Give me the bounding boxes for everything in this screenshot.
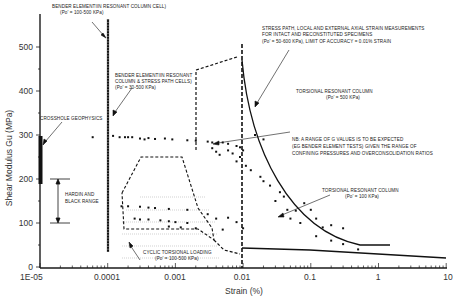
data-point [299,222,301,224]
data-point [174,221,176,223]
data-point [119,136,121,138]
data-point [279,191,281,193]
data-point [112,135,114,137]
data-point [180,226,182,228]
data-point [357,248,359,250]
label-trc-500: TORSIONAL RESONANT COLUMN [296,89,373,94]
data-point [250,169,252,171]
data-point [289,218,291,220]
data-point [330,240,332,242]
trc-100-curve [242,248,446,258]
label-stress-path: STRESS PATH, LOCAL AND EXTERNAL AXIAL ST… [262,26,425,31]
label-crosshole: CROSSHOLE GEOPHYSICS [40,116,103,121]
y-tick-0: 0 [28,262,33,272]
data-point [127,205,129,207]
data-point [147,137,149,139]
data-point [219,154,221,156]
label-nb-3: CONFINING PRESSURES AND OVERCONSOLIDATIO… [292,151,433,156]
label-bender-sp-pressure: (Po' = 30-500 KPa) [115,85,156,90]
label-bender-rc-pressure: (Po' = 100-500 KPa) [60,10,104,15]
y-tick-300: 300 [19,130,33,140]
data-point [131,136,133,138]
label-cyclic: CYCLIC TORSIONAL LOADING [143,250,212,255]
data-point [232,152,234,154]
stress-path-envelope [196,44,242,268]
data-point [164,138,166,140]
data-point [171,138,173,140]
data-point [227,149,229,151]
data-point [342,243,344,245]
cyclic-envelope [122,157,220,258]
label-bender-rc: BENDER ELEMENTIIN RESONANT COLUMN CELL) [52,4,166,9]
y-axis-title: Shear Modulus Gu (MPa) [4,110,14,207]
data-point [283,196,285,198]
data-point [236,145,238,147]
data-point [92,136,94,138]
data-point [222,229,224,231]
label-nb-2: (EG BENDER ELEMENT TESTS) GIVEN THE RANG… [292,144,417,149]
label-nb: NB: A RANGE OF G VALUES IS TO BE EXPECTE… [292,137,404,142]
data-point [245,165,247,167]
data-point [236,221,238,223]
data-point [286,209,288,211]
x-tick-0.001: 0.001 [164,272,186,282]
data-point [242,149,244,151]
data-point [147,218,149,220]
label-hardin-2: BLACK RANGE [65,199,99,204]
data-point [186,209,188,211]
x-axis-title: Strain (%) [225,286,263,296]
data-point [168,208,170,210]
data-point [127,136,129,138]
x-ticks [40,263,446,268]
data-point [186,139,188,141]
y-tick-labels: 500 400 300 200 100 0 [19,42,33,272]
data-point [211,141,213,143]
label-bender-sp: BENDER ELEMENTIIN RESONANT [115,73,192,78]
data-point [124,136,126,138]
data-point [239,156,241,158]
data-point [330,224,332,226]
data-point [195,227,197,229]
label-cyclic-pressure: (Po' = 100-500 KPa) [155,256,199,261]
data-point [254,134,256,136]
data-point [215,151,217,153]
data-point [262,180,264,182]
data-point [239,146,241,148]
data-point [342,227,344,229]
label-bender-sp-2: COLUMN & STRESS PATH CELLS) [115,79,192,84]
x-tick-10: 10 [443,272,453,282]
data-point [159,219,161,221]
y-tick-500: 500 [19,42,33,52]
data-point [139,206,141,208]
data-point [168,220,170,222]
data-point [139,138,141,140]
label-hardin: HARDIN AND [65,192,95,197]
data-point [315,218,317,220]
crosshole-bar [39,136,43,184]
data-point [274,200,276,202]
x-tick-1e-05: 1E-05 [20,272,43,282]
data-point [168,226,170,228]
data-point [315,235,317,237]
data-point [186,222,188,224]
shear-modulus-chart: 500 400 300 200 100 0 1E-05 0.0001 0.001… [0,0,461,304]
data-point [144,138,146,140]
x-tick-0.1: 0.1 [304,272,316,282]
label-trc-100-pressure: (Po' = 100 KPa) [345,194,379,199]
label-trc-100: TORSIONAL RESONANT COLUMN [322,188,399,193]
x-tick-1: 1 [376,272,381,282]
data-point [322,226,324,228]
data-point [259,176,261,178]
data-point [207,141,209,143]
data-point [269,185,271,187]
data-point [295,210,297,212]
y-tick-200: 200 [19,174,33,184]
label-stress-path-3: (Po' = 50-600 KPa), LIMIT OF ACCURACY = … [262,39,391,44]
data-point [215,218,217,220]
data-point [195,140,197,142]
data-point [154,207,156,209]
data-point [242,227,244,229]
data-point [134,218,136,220]
data-point [310,209,312,211]
label-trc-500-pressure: (Po' = 500 KPa) [326,95,360,100]
